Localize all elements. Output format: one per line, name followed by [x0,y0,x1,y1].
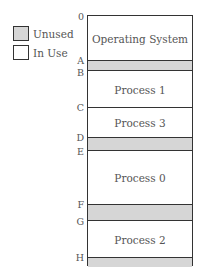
legend-unused-label: Unused [33,27,74,41]
legend-in-use-label: In Use [33,46,68,60]
address-label-f: F [74,200,84,210]
address-label-h: H [74,253,84,263]
legend-unused-swatch [13,26,29,41]
segment-label: Process 2 [114,234,165,246]
boundary-f [88,204,192,205]
address-label-a: A [74,56,84,66]
segment-process-3: Process 3 [88,108,192,138]
segment-operating-system: Operating System [88,16,192,61]
segment-unused [88,205,192,221]
boundary-e [88,150,192,151]
address-label-b: B [74,68,84,78]
boundary-b [88,70,192,71]
memory-map: Operating System Process 1 Process 3 Pro… [87,15,193,266]
boundary-g [88,220,192,221]
segment-label: Operating System [92,33,188,45]
segment-process-2: Process 2 [88,221,192,258]
boundary-c [88,107,192,108]
segment-label: Process 3 [114,117,165,129]
address-label-g: G [74,217,84,227]
segment-unused [88,258,192,267]
boundary-h [88,257,192,258]
address-label-c: C [74,103,84,113]
boundary-a [88,60,192,61]
legend-in-use-swatch [13,45,29,60]
segment-process-1: Process 1 [88,71,192,108]
address-label-d: D [74,133,84,143]
address-label-0: 0 [74,12,84,22]
address-label-e: E [74,147,84,157]
boundary-d [88,137,192,138]
segment-process-0: Process 0 [88,151,192,205]
segment-label: Process 1 [114,84,165,96]
segment-label: Process 0 [114,172,165,184]
